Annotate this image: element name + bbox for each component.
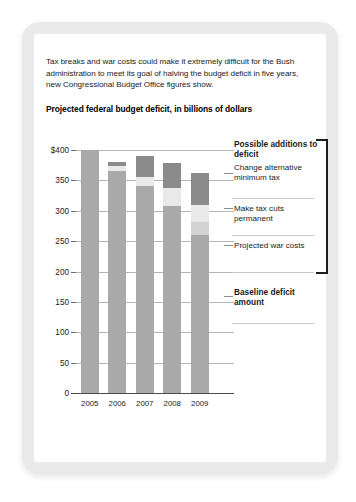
bar-segment [191,173,209,205]
legend-heading: Possible additions to deficit [234,139,318,160]
bar-segment [136,186,154,393]
legend-baseline: Baseline deficit amount [234,287,304,308]
gridline [76,272,234,273]
legend-rule-3 [232,272,314,273]
gridline [76,302,234,303]
leader-line-war [224,245,233,246]
bar-segment [108,162,126,166]
screenshot-root: Tax breaks and war costs could make it e… [0,0,356,502]
legend-rule-4 [232,323,314,324]
card-frame: Tax breaks and war costs could make it e… [22,22,338,474]
y-tick-label: 150 [35,297,69,306]
bar-segment [136,156,154,177]
bar-segment [191,205,209,222]
bar-2008 [163,163,181,393]
bar-segment [163,188,181,207]
y-tick-label: 350 [35,176,69,185]
bar-segment [108,171,126,393]
y-tick-mark [71,332,76,333]
leader-line-tax [224,208,233,209]
bar-segment [163,163,181,187]
bar-segment [163,206,181,393]
gridline [76,332,234,333]
bar-2007 [136,156,154,393]
gridline [76,180,234,181]
bar-segment [191,235,209,393]
y-tick-mark [71,211,76,212]
y-tick-label: 0 [35,389,69,398]
y-tick-label: 100 [35,328,69,337]
y-tick-mark [71,241,76,242]
gridline [76,211,234,212]
leader-line-baseline [224,296,233,297]
bar-2006 [108,162,126,393]
legend-item-war-costs: Projected war costs [234,241,318,251]
gridline [76,363,234,364]
y-tick-mark [71,302,76,303]
gridline [76,241,234,242]
y-tick-label: 300 [35,206,69,215]
infographic-content: Tax breaks and war costs could make it e… [34,34,326,462]
legend-item-amt: Change alternative minimum tax [234,163,314,183]
y-tick-mark [71,363,76,364]
bar-segment [136,177,154,187]
bar-segment [81,150,99,393]
y-tick-mark [71,272,76,273]
x-tick-label-2009: 2009 [184,399,216,408]
gridline [76,150,234,151]
y-tick-label: 50 [35,358,69,367]
y-tick-mark [71,150,76,151]
bar-2009 [191,173,209,393]
y-tick-label: 250 [35,237,69,246]
x-axis-line [71,393,234,394]
leader-line-amt [224,173,233,174]
legend-rule-1 [232,198,314,199]
bar-segment [108,166,126,171]
legend-rule-2 [232,235,314,236]
y-tick-label: $400 [35,146,69,155]
card-inner: Tax breaks and war costs could make it e… [34,34,326,462]
legend-item-tax-cuts: Make tax cuts permanent [234,204,318,224]
bar-segment [191,222,209,235]
bar-2005 [81,150,99,393]
y-tick-mark [71,180,76,181]
y-tick-label: 200 [35,267,69,276]
additions-bracket [316,139,330,274]
